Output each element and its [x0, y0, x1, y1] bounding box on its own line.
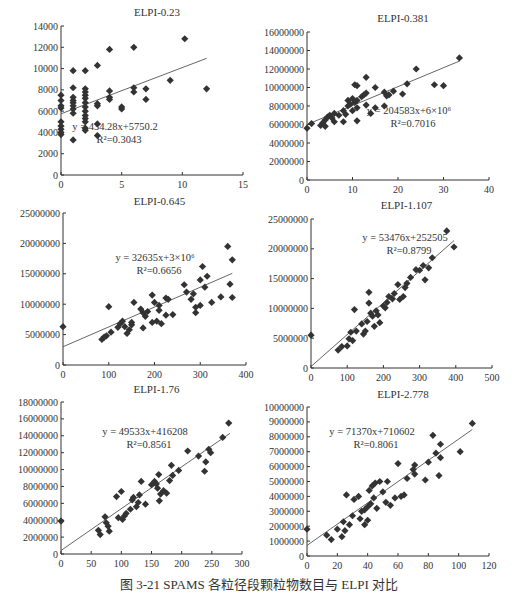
- y-tick-label: 7000000: [269, 446, 304, 457]
- y-tick-label: 12000: [33, 42, 58, 53]
- x-tick-label: 100: [114, 558, 129, 569]
- x-tick-label: 300: [193, 369, 208, 380]
- data-point: [440, 82, 447, 89]
- y-tick-label: 20000000: [268, 243, 308, 254]
- data-point: [94, 62, 101, 69]
- scatter-chart-6: ELPI-2.778010000002000000300000040000005…: [264, 388, 497, 571]
- data-point: [162, 312, 169, 319]
- data-point: [365, 289, 372, 296]
- data-point: [226, 281, 233, 288]
- y-tick-label: 5000000: [273, 333, 308, 344]
- r-squared-label: R²=0.8561: [127, 439, 172, 450]
- data-point: [106, 528, 113, 535]
- data-point: [341, 527, 348, 534]
- x-tick-label: 0: [305, 184, 310, 195]
- data-point: [457, 448, 464, 455]
- y-tick-label: 25000000: [20, 208, 60, 219]
- data-point: [391, 494, 398, 501]
- scatter-chart-2: ELPI-0.381020000004000000600000080000001…: [264, 12, 494, 195]
- y-tick-label: 10000000: [18, 464, 58, 475]
- data-point: [138, 478, 145, 485]
- y-tick-label: 5000000: [25, 329, 60, 340]
- data-point: [139, 324, 146, 331]
- data-point: [175, 467, 182, 474]
- data-point: [399, 90, 406, 97]
- data-point: [413, 65, 420, 72]
- x-tick-label: 0: [59, 179, 64, 190]
- chart-title: ELPI-0.23: [134, 6, 181, 18]
- x-tick-label: 250: [204, 558, 219, 569]
- data-point: [344, 342, 351, 349]
- y-tick-label: 5000000: [269, 476, 304, 487]
- x-tick-label: 100: [340, 372, 355, 383]
- data-point: [70, 84, 77, 91]
- y-tick-label: 20000000: [20, 238, 60, 249]
- x-tick-label: 200: [174, 558, 189, 569]
- data-point: [204, 273, 211, 280]
- data-point: [168, 462, 175, 469]
- y-tick-label: 10000000: [264, 402, 304, 413]
- y-tick-label: 14000000: [264, 45, 304, 56]
- y-tick-label: 4000000: [269, 138, 304, 149]
- data-point: [340, 118, 347, 125]
- chart-title: ELPI-2.778: [377, 388, 429, 400]
- x-tick-label: 120: [482, 560, 497, 571]
- data-point: [422, 476, 429, 483]
- trendline: [61, 433, 230, 550]
- data-point: [142, 96, 149, 103]
- data-point: [225, 420, 232, 427]
- r-squared-label: R²=0.8799: [387, 245, 432, 256]
- data-point: [184, 447, 191, 454]
- data-point: [181, 35, 188, 42]
- data-point: [113, 493, 120, 500]
- figure-panel: ELPI-0.230200040006000800010000120001400…: [0, 0, 518, 606]
- x-tick-label: 400: [448, 372, 463, 383]
- data-point: [202, 458, 209, 465]
- data-point: [169, 311, 176, 318]
- x-tick-label: 0: [305, 560, 310, 571]
- data-point: [70, 110, 77, 117]
- y-tick-label: 18000000: [18, 397, 58, 408]
- data-point: [101, 513, 108, 520]
- data-point: [70, 136, 77, 143]
- data-point: [376, 319, 383, 326]
- data-point: [303, 125, 310, 132]
- x-tick-label: 150: [144, 558, 159, 569]
- data-point: [384, 478, 391, 485]
- y-tick-label: 0: [53, 170, 58, 181]
- y-tick-label: 0: [303, 363, 308, 374]
- data-point: [308, 120, 315, 127]
- data-point: [353, 117, 360, 124]
- r-squared-label: R²=0.3043: [97, 134, 142, 145]
- y-tick-label: 9000000: [269, 416, 304, 427]
- y-tick-label: 12000000: [18, 447, 58, 458]
- y-tick-label: 10000000: [264, 82, 304, 93]
- x-tick-label: 15: [238, 179, 248, 190]
- data-point: [130, 44, 137, 51]
- y-tick-label: 2000000: [269, 521, 304, 532]
- x-tick-label: 20: [393, 184, 403, 195]
- data-point: [404, 475, 411, 482]
- data-point: [82, 67, 89, 74]
- x-tick-label: 0: [309, 372, 314, 383]
- data-point: [70, 67, 77, 74]
- figure-caption: 图 3-21 SPAMS 各粒径段颗粒物数目与 ELPI 对比: [0, 574, 518, 593]
- data-point: [363, 74, 370, 81]
- y-tick-label: 6000: [38, 106, 58, 117]
- data-point: [469, 420, 476, 427]
- data-point: [203, 85, 210, 92]
- data-point: [224, 243, 231, 250]
- data-point: [59, 323, 66, 330]
- x-tick-label: 60: [393, 560, 403, 571]
- data-point: [404, 80, 411, 87]
- data-point: [340, 518, 347, 525]
- data-point: [197, 276, 204, 283]
- data-point: [351, 306, 358, 313]
- scatter-chart-3: ELPI-0.645050000001000000015000000200000…: [20, 195, 254, 380]
- y-tick-label: 10000000: [20, 299, 60, 310]
- y-tick-label: 8000: [38, 84, 58, 95]
- x-tick-label: 300: [235, 558, 250, 569]
- y-tick-label: 25000000: [268, 214, 308, 225]
- scatter-chart-5: ELPI-1.760200000040000006000000800000010…: [18, 383, 250, 569]
- y-tick-label: 2000000: [23, 532, 58, 543]
